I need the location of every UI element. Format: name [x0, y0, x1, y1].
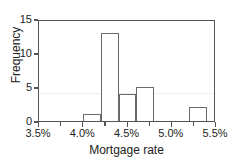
histogram-bar — [189, 107, 207, 121]
histogram-chart: Frequency 051015 3.5%4.0%4.5%5.0%5.5% Mo… — [0, 0, 242, 164]
x-tick-label: 3.5% — [25, 126, 50, 140]
y-tick-label: 15 — [20, 13, 32, 26]
x-tick-label: 4.5% — [114, 126, 139, 140]
histogram-bar — [136, 87, 154, 121]
y-tick-label: 5 — [26, 81, 32, 94]
plot-area — [38, 20, 215, 122]
histogram-bar — [101, 33, 119, 121]
histogram-bar — [119, 94, 137, 121]
x-axis-labels: 3.5%4.0%4.5%5.0%5.5% — [0, 126, 242, 142]
y-tick-label: 10 — [20, 47, 32, 60]
y-axis: 051015 — [0, 0, 38, 142]
x-tick-label: 4.0% — [70, 126, 95, 140]
x-tick-label: 5.0% — [158, 126, 183, 140]
x-axis-title: Mortgage rate — [38, 143, 215, 157]
histogram-bar — [83, 114, 101, 121]
x-tick-label: 5.5% — [202, 126, 227, 140]
